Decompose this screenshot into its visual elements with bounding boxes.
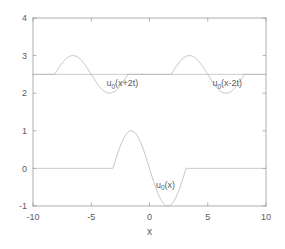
label-u0-x-plus-2t: u0(x+2t) [106, 78, 138, 89]
x-tick-label: -5 [87, 212, 95, 222]
label-u0-x: u0(x) [156, 180, 175, 191]
annotation-argument: (x) [165, 180, 176, 190]
x-tick-label: 10 [261, 212, 271, 222]
y-tick-label: 1 [22, 126, 27, 136]
x-tick-label: 5 [205, 212, 210, 222]
y-tick-label: 3 [22, 51, 27, 61]
annotation-argument: (x+2t) [115, 78, 138, 88]
plot-canvas: -10-50510 -101234 u0(x+2t)u0(x-2t)u0(x) … [0, 0, 285, 249]
x-tick-label: -10 [26, 212, 39, 222]
y-tick-label: -1 [19, 201, 27, 211]
y-tick-label: 2 [22, 88, 27, 98]
y-tick-label: 4 [22, 13, 27, 23]
label-u0-x-minus-2t: u0(x-2t) [212, 78, 242, 89]
y-tick-label: 0 [22, 164, 27, 174]
x-axis-label: x [147, 226, 152, 237]
x-tick-label: 0 [147, 212, 152, 222]
figure-background [0, 0, 285, 249]
annotation-argument: (x-2t) [221, 78, 242, 88]
figure-container: -10-50510 -101234 u0(x+2t)u0(x-2t)u0(x) … [0, 0, 285, 249]
